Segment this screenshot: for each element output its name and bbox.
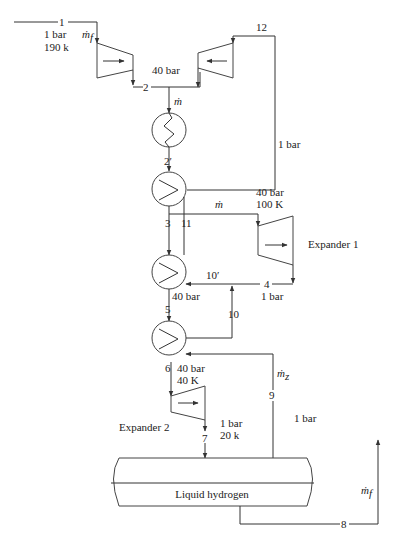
state-point-10-prime: 10′ <box>206 269 219 281</box>
state-point-5: 5 <box>165 303 171 315</box>
heat-exchanger-1 <box>152 172 186 206</box>
state-point-11: 11 <box>181 217 192 229</box>
expander-flow-label: ṁ <box>215 198 223 210</box>
expander-2-label: Expander 2 <box>119 421 169 433</box>
svg-text:f: f <box>369 487 374 499</box>
svg-text:ṁ: ṁ <box>277 367 285 379</box>
svg-text:ṁ: ṁ <box>215 198 223 210</box>
expander1-inlet-pressure-label: 40 bar <box>256 186 284 198</box>
svg-text:f: f <box>90 31 95 43</box>
process-flow-diagram: 1 1 bar 190 k ṁ f 2 40 bar 12 1 bar ṁ … <box>0 0 395 541</box>
state-point-2-prime: 2′ <box>164 155 172 167</box>
compressor-1 <box>97 43 133 78</box>
tank-label: Liquid hydrogen <box>175 488 249 500</box>
expander2-outlet-pressure-label: 1 bar <box>220 417 243 429</box>
hx2-outlet-pressure-label: 40 bar <box>172 290 200 302</box>
makeup-flow-label: ṁ f <box>82 28 95 43</box>
state-point-1: 1 <box>59 16 65 28</box>
svg-text:ṁ: ṁ <box>82 28 90 40</box>
return-line-pressure-label: 1 bar <box>278 138 301 150</box>
heat-exchanger-3 <box>152 321 186 355</box>
state-point-4: 4 <box>264 278 270 290</box>
expander-2 <box>171 386 205 420</box>
precooler <box>152 113 186 147</box>
svg-text:ṁ: ṁ <box>361 484 369 496</box>
svg-text:z: z <box>284 370 290 382</box>
product-flow-label: ṁ f <box>361 484 374 499</box>
state-point-9: 9 <box>269 389 275 401</box>
state-point-10: 10 <box>228 308 240 320</box>
expander-1 <box>258 216 293 265</box>
expander1-outlet-pressure-label: 1 bar <box>261 290 284 302</box>
state-point-8: 8 <box>341 518 347 530</box>
state-point-3: 3 <box>165 217 171 229</box>
expander2-inlet-pressure-label: 40 bar <box>177 362 205 374</box>
vapor-return-pressure-label: 1 bar <box>294 412 317 424</box>
compressor-2 <box>198 43 233 78</box>
heat-exchanger-2 <box>152 255 186 289</box>
svg-text:ṁ: ṁ <box>174 95 182 107</box>
state-point-12: 12 <box>256 21 267 33</box>
inlet-temp-label: 190 k <box>44 41 69 53</box>
expander-1-label: Expander 1 <box>308 238 358 250</box>
state-point-6: 6 <box>165 362 171 374</box>
state-point-2: 2 <box>143 81 149 93</box>
expander2-outlet-temp-label: 20 k <box>220 429 240 441</box>
state-point-7: 7 <box>202 432 208 444</box>
main-flow-label: ṁ <box>174 95 182 107</box>
vapor-flow-label: ṁ z <box>277 367 290 382</box>
expander2-inlet-temp-label: 40 K <box>177 374 199 386</box>
compressor-outlet-pressure-label: 40 bar <box>152 64 180 76</box>
expander1-inlet-temp-label: 100 K <box>256 198 283 210</box>
inlet-pressure-label: 1 bar <box>44 28 67 40</box>
